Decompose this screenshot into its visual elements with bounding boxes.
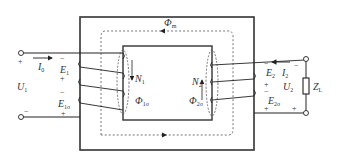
load-label: ZL [313, 81, 323, 93]
primary-terminal-top [19, 51, 24, 56]
secondary-terminal-top [304, 57, 309, 62]
primary-plus-top: + [18, 57, 23, 66]
load-impedance [303, 60, 309, 113]
secondary-leak-emf-plus: + [264, 104, 269, 113]
flux-arrow-top-icon [160, 29, 165, 34]
primary-leak-emf-minus: − [60, 88, 65, 97]
primary-emf-plus: + [60, 74, 65, 83]
flux-arrow-bottom-icon [162, 133, 167, 138]
primary-leak-emf-plus: + [61, 109, 66, 118]
primary-current-label: I0 [37, 61, 44, 73]
main-flux-label: Φm [164, 17, 177, 29]
secondary-plus-bottom: + [292, 104, 297, 113]
primary-terminal-bottom [19, 115, 24, 120]
primary-turns-label: N1 [134, 73, 145, 85]
primary-minus-bottom: − [24, 107, 29, 116]
secondary-emf-label: E2 [265, 67, 275, 79]
secondary-turns-label: N2 [191, 76, 202, 88]
primary-leak-flux-label: Φ1σ [135, 95, 150, 107]
transformer-core [80, 17, 254, 150]
secondary-current-label: I2 [281, 67, 288, 79]
primary-emf-minus: − [60, 54, 65, 63]
main-flux-path [101, 29, 233, 138]
secondary-leak-flux-label: Φ2σ [189, 95, 204, 107]
primary-voltage-label: U1 [17, 81, 27, 93]
secondary-terminal-bottom [304, 111, 309, 116]
secondary-minus-top: − [294, 61, 299, 70]
secondary-leak-emf-label: E2σ [267, 95, 281, 107]
transformer-diagram: Φm + I0 − E1 + U1 − E1σ + − N1 Φ1σ [0, 0, 339, 159]
secondary-voltage-label: U2 [283, 81, 293, 93]
